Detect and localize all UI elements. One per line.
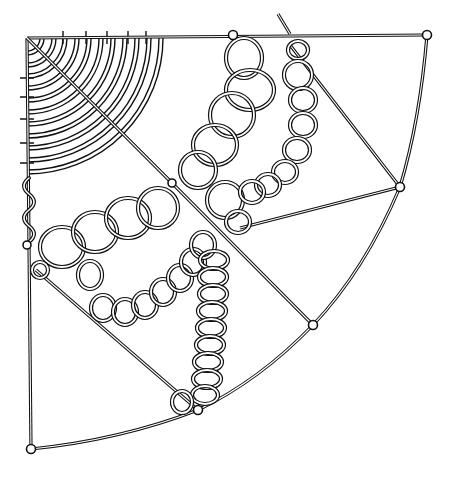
left-sweep-chain bbox=[32, 188, 178, 278]
lower-sweep-chain bbox=[78, 232, 215, 325]
node bbox=[194, 406, 203, 415]
node bbox=[27, 445, 36, 454]
node bbox=[396, 183, 405, 192]
node bbox=[229, 31, 238, 40]
wire-frame-illustration bbox=[0, 0, 454, 486]
node bbox=[168, 179, 176, 187]
node bbox=[423, 31, 432, 40]
vertical-chain bbox=[172, 251, 228, 413]
node bbox=[23, 241, 31, 249]
node bbox=[309, 321, 318, 330]
